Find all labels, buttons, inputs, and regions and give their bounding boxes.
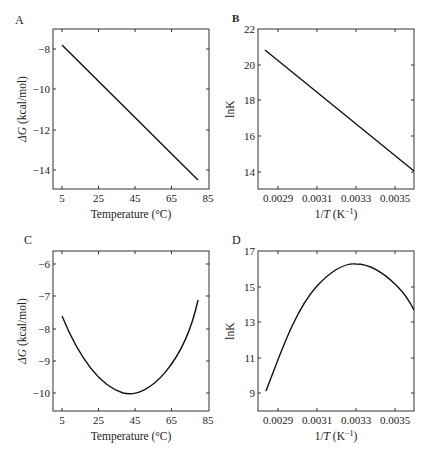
x-tick-label: 25 (93, 414, 105, 426)
panel-label-c: C (24, 233, 32, 247)
y-ticks-a: −8 −10 −12 −14 (33, 43, 209, 176)
y-tick-label: 20 (244, 59, 256, 71)
x-tick-label: 25 (93, 192, 105, 204)
figure: A 5 25 45 65 85 −8 −10 −12 −14 Temperatu… (0, 0, 427, 455)
y-tick-label: 17 (244, 245, 256, 257)
x-tick-label: 65 (166, 414, 178, 426)
panel-d: D 0.0029 0.0031 0.0033 0.0035 17 15 13 1… (224, 233, 414, 443)
panel-a: A 5 25 45 65 85 −8 −10 −12 −14 Temperatu… (15, 13, 214, 221)
x-tick-label: 5 (59, 192, 65, 204)
y-tick-label: −8 (38, 43, 50, 55)
data-curve-c (62, 300, 198, 394)
x-axis-label-a: Temperature (°C) (91, 208, 172, 221)
panel-label-b: B (232, 12, 240, 24)
y-tick-label: −7 (38, 290, 50, 302)
x-tick-label: 0.0031 (302, 414, 332, 426)
y-tick-label: −6 (38, 258, 50, 270)
y-tick-label: 22 (244, 23, 255, 35)
y-tick-label: 16 (244, 130, 256, 142)
y-ticks-b: 22 20 18 16 14 (244, 23, 414, 178)
x-tick-label: 0.0035 (380, 414, 411, 426)
plot-frame-d (258, 251, 414, 411)
y-tick-label: 9 (250, 387, 256, 399)
y-ticks-d: 17 15 13 11 9 (244, 245, 414, 399)
y-tick-label: −9 (38, 355, 50, 367)
x-tick-label: 85 (203, 414, 215, 426)
y-tick-label: −10 (33, 83, 51, 95)
x-ticks-d: 0.0029 0.0031 0.0033 0.0035 (263, 251, 411, 426)
plot-frame-c (53, 251, 209, 411)
y-tick-label: −10 (33, 387, 51, 399)
y-axis-label-c: ΔG (kcal/mol) (16, 298, 29, 365)
y-tick-label: 14 (244, 166, 256, 178)
plot-frame-a (53, 29, 209, 189)
x-ticks-a: 5 25 45 65 85 (59, 29, 214, 204)
plot-frame-b (258, 29, 414, 189)
x-tick-label: 0.0033 (341, 414, 372, 426)
y-axis-label-d: lnK (224, 322, 236, 340)
panel-label-a: A (15, 13, 24, 27)
panel-label-d: D (232, 233, 241, 247)
y-ticks-c: −6 −7 −8 −9 −10 (33, 258, 209, 399)
y-tick-label: 18 (244, 94, 256, 106)
x-tick-label: 5 (59, 414, 65, 426)
x-ticks-b: 0.0029 0.0031 0.0033 0.0035 (263, 29, 411, 204)
data-line-a (62, 45, 198, 180)
y-tick-label: 13 (244, 316, 256, 328)
x-tick-label: 85 (203, 192, 215, 204)
x-tick-label: 0.0029 (263, 192, 294, 204)
x-tick-label: 0.0031 (302, 192, 332, 204)
x-tick-label: 0.0035 (380, 192, 411, 204)
data-line-b (265, 50, 414, 171)
x-axis-label-d: 1/T (K−1) (315, 429, 358, 443)
x-tick-label: 65 (166, 192, 178, 204)
panel-c: C 5 25 45 65 85 −6 −7 −8 −9 −10 Temper (16, 233, 214, 443)
x-tick-label: 45 (130, 192, 142, 204)
y-tick-label: −8 (38, 323, 50, 335)
x-tick-label: 45 (130, 414, 142, 426)
x-tick-label: 0.0029 (263, 414, 294, 426)
x-ticks-c: 5 25 45 65 85 (59, 251, 214, 426)
y-axis-label-b: lnK (224, 100, 236, 118)
y-axis-label-a: ΔG (kcal/mol) (16, 76, 29, 143)
data-curve-d (266, 264, 414, 391)
y-tick-label: 11 (244, 352, 255, 364)
y-tick-label: −14 (33, 164, 51, 176)
x-tick-label: 0.0033 (341, 192, 372, 204)
y-tick-label: −12 (33, 124, 50, 136)
y-tick-label: 15 (244, 281, 256, 293)
x-axis-label-c: Temperature (°C) (91, 430, 172, 443)
panel-b: B 0.0029 0.0031 0.0033 0.0035 22 20 18 1… (224, 12, 414, 221)
x-axis-label-b: 1/T (K−1) (315, 207, 358, 221)
